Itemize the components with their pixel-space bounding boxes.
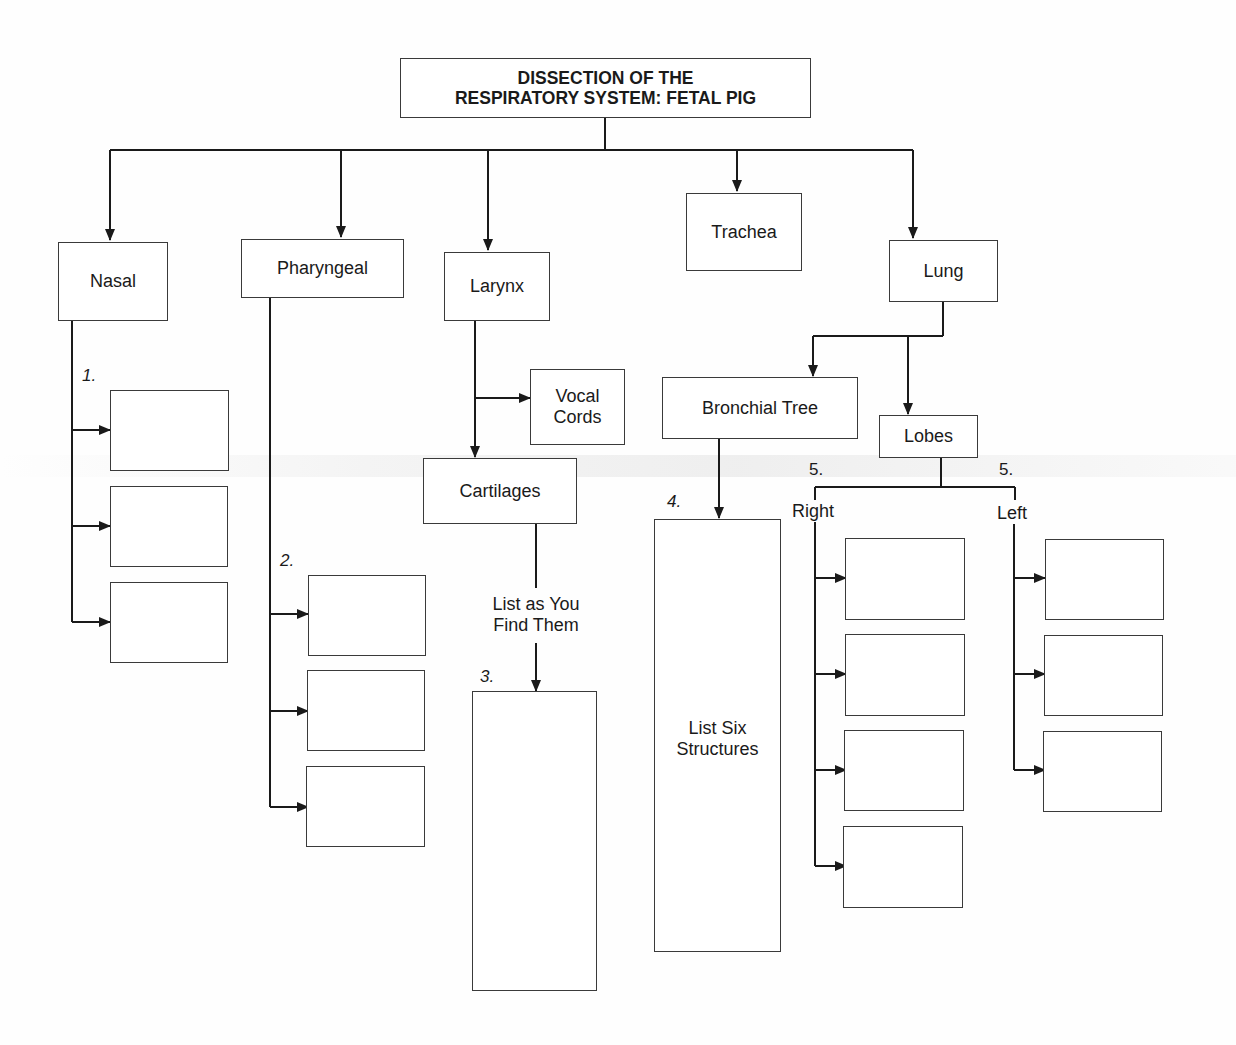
bronchial-answer-box[interactable]: List Six Structures: [654, 519, 781, 952]
title-line-1: DISSECTION OF THE: [518, 68, 694, 88]
bronchial-tree-box: Bronchial Tree: [662, 377, 858, 439]
pharyngeal-answer-box-2[interactable]: [307, 670, 425, 751]
nasal-label: Nasal: [90, 271, 136, 292]
number-3: 3.: [480, 667, 494, 687]
list-as-you-find-them-instruction: List as You Find Them: [476, 594, 596, 636]
cartilages-label: Cartilages: [459, 481, 540, 502]
pharyngeal-answer-box-1[interactable]: [308, 575, 426, 656]
vocal-cords-box: Vocal Cords: [530, 369, 625, 445]
left-lobe-answer-box-3[interactable]: [1043, 731, 1162, 812]
lobes-box: Lobes: [879, 415, 978, 458]
pharyngeal-label: Pharyngeal: [277, 258, 368, 279]
nasal-answer-box-3[interactable]: [110, 582, 228, 663]
left-lobe-answer-box-2[interactable]: [1044, 635, 1163, 716]
left-lobe-answer-box-1[interactable]: [1045, 539, 1164, 620]
trachea-box: Trachea: [686, 193, 802, 271]
lobes-label: Lobes: [904, 426, 953, 447]
diagram-canvas: DISSECTION OF THE RESPIRATORY SYSTEM: FE…: [0, 0, 1236, 1045]
right-lobe-answer-box-2[interactable]: [845, 634, 965, 716]
right-lobe-answer-box-4[interactable]: [843, 826, 963, 908]
number-4: 4.: [667, 492, 681, 512]
nasal-answer-box-2[interactable]: [110, 486, 228, 567]
number-5-right: 5.: [809, 460, 823, 480]
diagram-title: DISSECTION OF THE RESPIRATORY SYSTEM: FE…: [400, 58, 811, 118]
number-5-left: 5.: [999, 460, 1013, 480]
cartilages-answer-box[interactable]: [472, 691, 597, 991]
bronchial-instruction-line-1: List Six: [655, 718, 780, 739]
larynx-box: Larynx: [444, 252, 550, 321]
right-lobes-label: Right: [792, 501, 834, 522]
bronchial-tree-label: Bronchial Tree: [702, 398, 818, 419]
vocal-cords-label-2: Cords: [553, 407, 601, 428]
instruction-line-1: List as You: [476, 594, 596, 615]
cartilages-box: Cartilages: [423, 458, 577, 524]
pharyngeal-answer-box-3[interactable]: [306, 766, 425, 847]
larynx-label: Larynx: [470, 276, 524, 297]
nasal-box: Nasal: [58, 242, 168, 321]
right-lobe-answer-box-3[interactable]: [844, 730, 964, 811]
vocal-cords-label-1: Vocal: [555, 386, 599, 407]
number-1: 1.: [82, 366, 96, 386]
bronchial-instruction-line-2: Structures: [655, 739, 780, 760]
number-2: 2.: [280, 551, 294, 571]
title-line-2: RESPIRATORY SYSTEM: FETAL PIG: [455, 88, 756, 108]
instruction-line-2: Find Them: [476, 615, 596, 636]
trachea-label: Trachea: [711, 222, 776, 243]
lung-box: Lung: [889, 240, 998, 302]
left-lobes-label: Left: [997, 503, 1027, 524]
lung-label: Lung: [923, 261, 963, 282]
nasal-answer-box-1[interactable]: [110, 390, 229, 471]
right-lobe-answer-box-1[interactable]: [845, 538, 965, 620]
pharyngeal-box: Pharyngeal: [241, 239, 404, 298]
